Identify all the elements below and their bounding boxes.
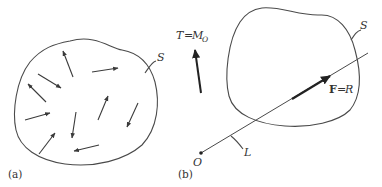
surface-s-label-b: S — [360, 19, 368, 32]
force-arrow — [74, 145, 99, 151]
panel-a: S (a) — [8, 39, 165, 180]
origin-label-o: O — [193, 156, 202, 169]
surface-s-label-a: S — [157, 51, 165, 64]
force-arrow — [25, 113, 50, 120]
surface-s-boundary-b — [227, 8, 359, 127]
origin-point-o — [199, 151, 203, 155]
force-symbol-f: F — [329, 83, 337, 96]
force-arrow — [127, 103, 138, 127]
force-label: F = R — [329, 83, 353, 96]
force-arrow — [98, 96, 108, 120]
resultant-force-arrow — [292, 76, 330, 99]
force-arrow — [39, 133, 55, 154]
force-arrow — [38, 74, 61, 88]
statics-equivalence-figure: S (a) T = M O — [0, 0, 382, 187]
moment-subscript-o: O — [202, 35, 208, 44]
force-vectors-a — [25, 51, 138, 154]
moment-vector-arrow — [195, 50, 201, 93]
line-l-leader — [231, 136, 243, 149]
line-label-l: L — [243, 146, 251, 159]
force-arrow — [72, 112, 76, 138]
panel-label-a: (a) — [8, 168, 22, 180]
moment-label: T = M O — [176, 29, 208, 44]
force-symbol-r: R — [344, 83, 353, 96]
force-arrow — [28, 84, 46, 102]
force-arrow — [92, 68, 118, 72]
line-of-action-l — [201, 53, 368, 153]
surface-s-boundary-a — [15, 39, 158, 165]
panel-b: T = M O S O L F = R — [176, 8, 368, 180]
panel-label-b: (b) — [178, 168, 193, 180]
force-arrow — [63, 51, 73, 77]
